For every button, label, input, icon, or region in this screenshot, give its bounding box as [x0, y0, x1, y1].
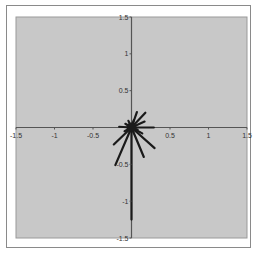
x-tick-label: 1.5: [242, 132, 252, 139]
origin-cluster: [127, 123, 137, 133]
x-tick-label: 1: [207, 132, 211, 139]
y-tick-label: 1.5: [119, 14, 129, 21]
y-tick-label: -1: [122, 198, 128, 205]
x-tick-label: -1: [51, 132, 57, 139]
y-tick-label: -0.5: [116, 161, 128, 168]
y-tick-label: -1.5: [116, 235, 128, 242]
x-tick-label: -1.5: [10, 132, 22, 139]
x-tick-label: -0.5: [87, 132, 99, 139]
vector-chart: -1.5-1-0.50.511.51.510.5-0.5-1-1.5: [0, 0, 256, 253]
y-tick-label: 0.5: [119, 87, 129, 94]
x-tick-label: 0.5: [165, 132, 175, 139]
y-tick-label: 1: [125, 50, 129, 57]
